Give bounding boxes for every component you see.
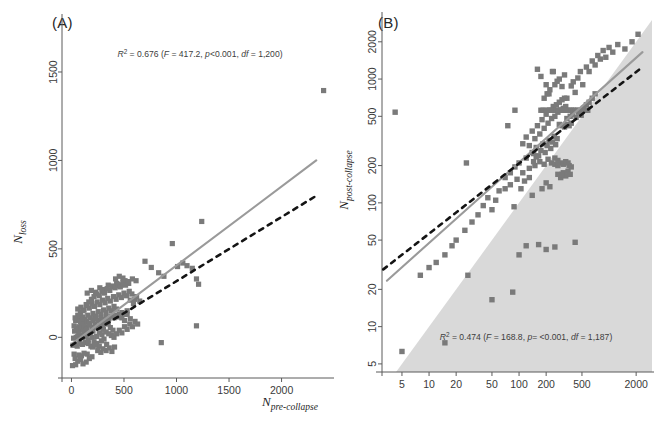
data-point xyxy=(523,243,528,248)
data-point xyxy=(629,39,634,44)
data-point xyxy=(122,318,127,323)
data-point xyxy=(493,198,498,203)
data-point xyxy=(502,186,507,191)
data-point xyxy=(481,203,486,208)
y-tick-label: 20 xyxy=(367,283,379,295)
figure-container: (A) 0500100015002000050010001500R2 = 0.6… xyxy=(0,0,660,426)
y-tick-label: 1500 xyxy=(48,60,60,84)
data-point xyxy=(527,175,532,180)
data-point xyxy=(547,184,552,189)
data-point xyxy=(575,75,580,80)
data-point xyxy=(580,82,585,87)
data-point xyxy=(514,177,519,182)
y-tick-label: 5 xyxy=(367,361,379,367)
y-tick-label: 0 xyxy=(48,334,60,340)
data-point xyxy=(418,273,423,278)
axis-title: Nloss xyxy=(10,220,28,245)
data-point xyxy=(496,188,501,193)
data-point xyxy=(196,282,201,287)
data-point xyxy=(71,323,76,328)
data-point xyxy=(89,354,94,359)
data-point xyxy=(527,143,532,148)
data-point xyxy=(527,166,532,171)
data-point xyxy=(531,159,536,164)
data-point xyxy=(80,308,85,313)
solid-regression-line xyxy=(71,160,316,344)
x-tick-label: 10 xyxy=(423,378,435,390)
data-point xyxy=(464,160,469,165)
data-point xyxy=(142,259,147,264)
data-point xyxy=(532,136,537,141)
data-point xyxy=(520,170,525,175)
data-point xyxy=(552,244,557,249)
data-point xyxy=(512,108,517,113)
data-point xyxy=(129,291,134,296)
data-point xyxy=(559,172,564,177)
data-point xyxy=(516,252,521,257)
data-point xyxy=(392,109,397,114)
data-point xyxy=(102,291,107,296)
data-point xyxy=(194,276,199,281)
data-point xyxy=(568,172,573,177)
data-point xyxy=(73,315,78,320)
y-tick-label: 200 xyxy=(367,157,379,175)
data-point xyxy=(475,212,480,217)
data-point xyxy=(184,263,189,268)
data-point xyxy=(399,349,404,354)
data-point xyxy=(194,323,199,328)
data-point xyxy=(551,69,556,74)
data-point xyxy=(535,123,540,128)
data-point xyxy=(126,279,131,284)
data-point xyxy=(114,297,119,302)
data-point xyxy=(130,324,135,329)
data-point xyxy=(518,186,523,191)
data-point xyxy=(610,49,615,54)
data-point xyxy=(170,241,175,246)
data-point xyxy=(572,90,577,95)
data-point xyxy=(101,336,106,341)
x-tick-label: 50 xyxy=(486,378,498,390)
data-point xyxy=(546,91,551,96)
data-point xyxy=(449,243,454,248)
data-point xyxy=(539,186,544,191)
y-tick-label: 2000 xyxy=(367,30,379,54)
data-point xyxy=(199,219,204,224)
data-point xyxy=(543,247,548,252)
y-tick-label: 10 xyxy=(367,321,379,333)
data-point xyxy=(485,195,490,200)
data-point xyxy=(541,162,546,167)
data-point xyxy=(571,79,576,84)
x-tick-label: 5 xyxy=(399,378,405,390)
x-tick-label: 20 xyxy=(450,378,462,390)
data-point xyxy=(538,74,543,79)
data-point xyxy=(548,146,553,151)
data-point xyxy=(586,69,591,74)
data-point xyxy=(128,316,133,321)
data-point xyxy=(635,32,640,37)
data-point xyxy=(505,123,510,128)
data-point xyxy=(159,340,164,345)
data-point xyxy=(86,337,91,342)
y-tick-label: 50 xyxy=(367,234,379,246)
data-point xyxy=(564,96,569,101)
data-point xyxy=(433,260,438,265)
x-tick-label: 1500 xyxy=(217,384,241,396)
x-tick-label: 200 xyxy=(537,378,555,390)
data-point xyxy=(569,164,574,169)
data-point xyxy=(469,219,474,224)
data-point xyxy=(530,128,535,133)
x-tick-label: 1000 xyxy=(165,384,189,396)
data-point xyxy=(321,88,326,93)
data-point xyxy=(572,240,577,245)
data-point xyxy=(592,62,597,67)
stat-annotation: R2 = 0.474 (F = 168.8, p= <0.001, df = 1… xyxy=(440,331,613,343)
data-point xyxy=(112,344,117,349)
stat-annotation: R2 = 0.676 (F = 417.2, p<0.001, df = 1,2… xyxy=(117,48,282,60)
y-tick-label: 100 xyxy=(367,194,379,212)
data-point xyxy=(615,42,620,47)
data-point xyxy=(557,76,562,81)
y-tick-label: 500 xyxy=(367,107,379,125)
data-point xyxy=(537,131,542,136)
data-point xyxy=(535,67,540,72)
data-point xyxy=(520,141,525,146)
